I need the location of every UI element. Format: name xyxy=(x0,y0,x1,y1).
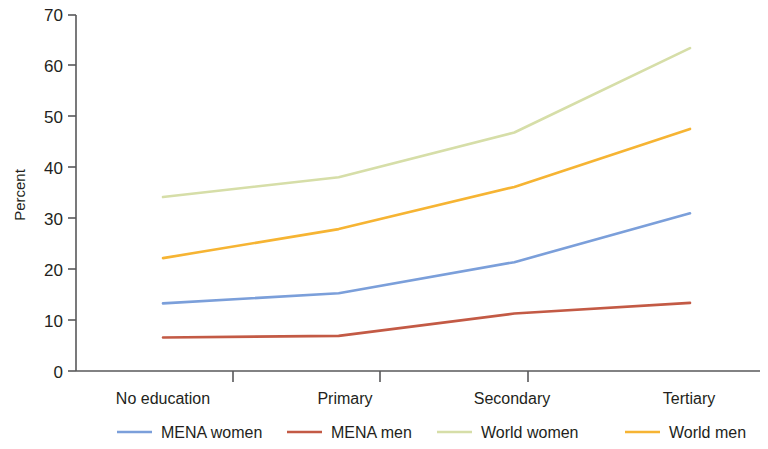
y-tick-label-0: 0 xyxy=(54,363,63,382)
line-chart: Percent 0 10 20 30 40 50 60 70 xyxy=(0,0,768,449)
y-tick-label-10: 10 xyxy=(44,312,63,331)
y-axis-label-text: Percent xyxy=(11,168,28,221)
x-tick-label-primary: Primary xyxy=(317,390,372,407)
y-tick-label-20: 20 xyxy=(44,261,63,280)
y-tick-labels: 0 10 20 30 40 50 60 70 xyxy=(44,6,63,382)
line-world-men xyxy=(163,129,690,258)
line-mena-men xyxy=(163,303,690,338)
series-mena-women xyxy=(163,213,690,303)
legend-label-world-men: World men xyxy=(669,424,746,441)
y-tick-label-30: 30 xyxy=(44,210,63,229)
line-mena-women xyxy=(163,213,690,303)
series-mena-men xyxy=(163,303,690,338)
x-axis xyxy=(76,371,760,382)
y-tick-label-50: 50 xyxy=(44,108,63,127)
line-world-women xyxy=(163,48,690,197)
series-world-women xyxy=(163,48,690,197)
y-axis-label: Percent xyxy=(11,168,28,221)
legend-label-mena-women: MENA women xyxy=(161,424,262,441)
series-world-men xyxy=(163,129,690,258)
legend-label-world-women: World women xyxy=(481,424,579,441)
x-tick-label-secondary: Secondary xyxy=(474,390,551,407)
x-tick-labels: No education Primary Secondary Tertiary xyxy=(116,390,715,407)
chart-figure: Percent 0 10 20 30 40 50 60 70 xyxy=(0,0,768,449)
legend-label-mena-men: MENA men xyxy=(331,424,412,441)
x-tick-label-no-education: No education xyxy=(116,390,210,407)
y-tick-label-60: 60 xyxy=(44,57,63,76)
y-tick-label-40: 40 xyxy=(44,159,63,178)
y-axis xyxy=(68,15,76,371)
y-tick-label-70: 70 xyxy=(44,6,63,25)
x-tick-label-tertiary: Tertiary xyxy=(663,390,715,407)
chart-legend: MENA women MENA men World women World me… xyxy=(117,424,746,441)
